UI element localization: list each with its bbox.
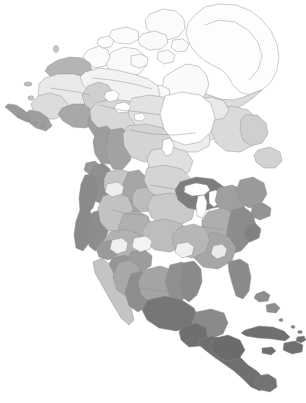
aleutian-islet-4 [41,125,45,128]
bering-island-pribilof [28,96,34,100]
north-america-ecoregion-map [0,0,306,403]
map-figure [0,0,306,403]
aleutian-islet-1 [17,114,23,118]
st-lawrence-island [24,82,32,86]
arctic-small-island-alaska [53,46,58,53]
aleutian-islet-3 [33,122,38,125]
region-caribbean-islet-3 [279,319,283,322]
aleutian-islet-2 [25,118,31,121]
region-lesser-antilles-islet-2 [291,326,295,329]
region-lesser-antilles-islet-1 [298,330,303,333]
